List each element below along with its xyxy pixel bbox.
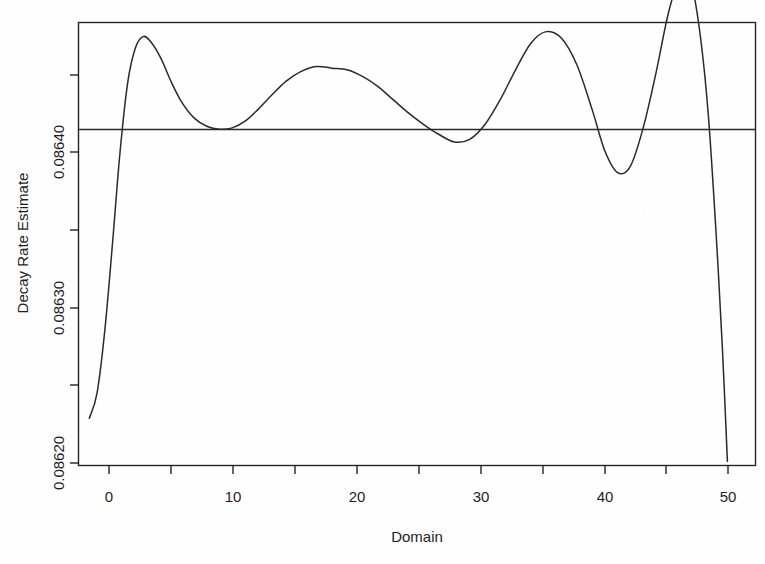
y-tick-label-2: 0.08640	[50, 125, 67, 179]
x-tick-label-4: 40	[597, 488, 614, 505]
x-tick-label-2: 20	[349, 488, 366, 505]
x-axis-ticks	[109, 466, 728, 475]
x-tick-label-5: 50	[720, 488, 737, 505]
y-tick-label-1: 0.08630	[50, 281, 67, 335]
x-tick-label-3: 30	[473, 488, 490, 505]
line-chart: 0.08620 0.08630 0.08640 0 10 20 30 40 50	[0, 0, 765, 564]
decay-rate-curve	[89, 0, 727, 461]
y-axis-tick-labels: 0.08620 0.08630 0.08640	[50, 125, 67, 490]
x-axis-tick-labels: 0 10 20 30 40 50	[105, 488, 737, 505]
y-tick-label-0: 0.08620	[50, 436, 67, 490]
y-axis-title: Decay Rate Estimate	[14, 173, 31, 314]
figure-container: 0.08620 0.08630 0.08640 0 10 20 30 40 50	[0, 0, 765, 564]
plot-frame	[79, 23, 756, 466]
x-tick-label-0: 0	[105, 488, 113, 505]
y-axis-ticks	[70, 75, 79, 463]
x-tick-label-1: 10	[225, 488, 242, 505]
x-axis-title: Domain	[391, 528, 443, 545]
